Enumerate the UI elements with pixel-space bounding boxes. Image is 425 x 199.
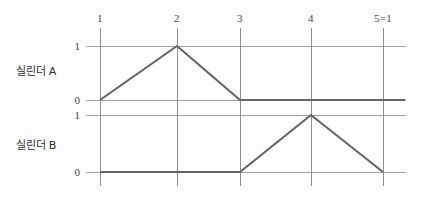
y-tick-label-cylinder-b-high: 1	[62, 109, 80, 121]
series-label-cylinder-b: 실린더 B	[16, 136, 56, 152]
cylinder-timing-diagram: 1 2 3 4 5=1 1 0 1 0 실린더 A 실린더 B	[0, 0, 425, 199]
x-tick-label-3: 3	[237, 12, 243, 24]
x-tick-label-5: 5=1	[374, 12, 392, 24]
y-tick-label-cylinder-a-high: 1	[62, 40, 80, 52]
series-line-cylinder-a	[100, 46, 405, 100]
y-tick-label-cylinder-b-low: 0	[62, 166, 80, 178]
y-tick-label-cylinder-a-low: 0	[62, 94, 80, 106]
x-tick-label-2: 2	[174, 12, 180, 24]
series-line-cylinder-b	[100, 115, 383, 172]
series-label-cylinder-a: 실린더 A	[16, 62, 56, 78]
x-tick-label-4: 4	[308, 12, 314, 24]
x-tick-label-1: 1	[97, 12, 103, 24]
